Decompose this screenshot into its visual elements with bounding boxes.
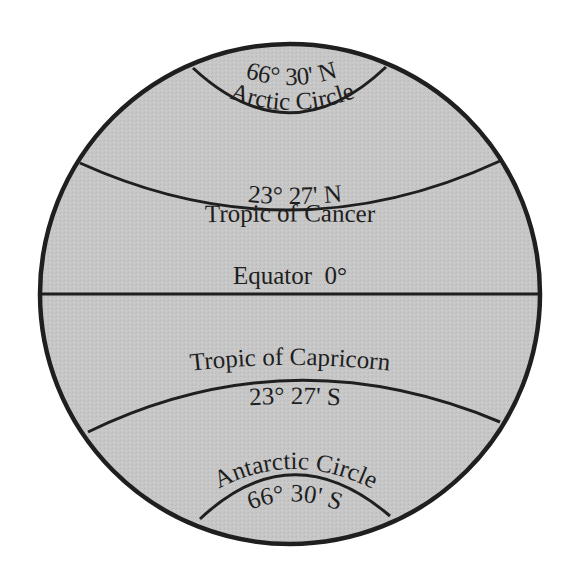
equator-label: Equator 0° bbox=[233, 262, 347, 289]
tropic-of-cancer-name-label: Tropic of Cancer bbox=[205, 199, 376, 227]
globe-latitude-diagram: 66° 30' N Arctic Circle 23° 27' N Tropic… bbox=[0, 0, 580, 588]
tropic-of-capricorn-latitude-label: 23° 27' S bbox=[248, 382, 341, 410]
